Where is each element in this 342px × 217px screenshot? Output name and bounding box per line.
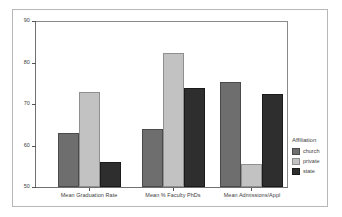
bar-admissions-private[interactable] (241, 164, 262, 187)
legend-swatch-private-icon (292, 158, 300, 165)
y-tick-label-90: 90 (24, 17, 30, 24)
bars-layer (36, 22, 287, 187)
bar-facultyphds-private[interactable] (163, 53, 184, 187)
bar-admissions-state[interactable] (262, 94, 283, 187)
y-tick-50: 50 (32, 187, 36, 188)
legend-label-state: state (303, 168, 315, 175)
legend-item-church[interactable]: church (292, 147, 338, 155)
chart-figure: 90 80 70 60 50 Mean Graduation Rate Mean… (0, 0, 342, 217)
bar-graduation-state[interactable] (100, 162, 121, 187)
y-tick-label-70: 70 (24, 100, 30, 107)
legend-item-state[interactable]: state (292, 167, 338, 175)
x-axis-label-graduation: Mean Graduation Rate (46, 191, 132, 199)
bar-facultyphds-state[interactable] (184, 88, 205, 187)
x-axis-label-facultyphds: Mean % Faculty PhDs (132, 191, 214, 199)
legend-label-private: private (303, 158, 320, 165)
legend-title: Affiliation (292, 136, 338, 144)
legend-item-private[interactable]: private (292, 157, 338, 165)
legend: Affiliation church private state (292, 136, 338, 177)
bar-graduation-private[interactable] (79, 92, 100, 187)
bar-graduation-church[interactable] (58, 133, 79, 187)
y-tick-label-60: 60 (24, 142, 30, 149)
legend-label-church: church (303, 148, 320, 155)
x-axis-label-admissions: Mean Admissions/Appl (209, 191, 295, 199)
bar-facultyphds-church[interactable] (142, 129, 163, 187)
y-tick-label-80: 80 (24, 59, 30, 66)
legend-swatch-state-icon (292, 168, 300, 175)
legend-swatch-church-icon (292, 148, 300, 155)
y-tick-label-50: 50 (24, 183, 30, 190)
bar-admissions-church[interactable] (220, 82, 241, 187)
